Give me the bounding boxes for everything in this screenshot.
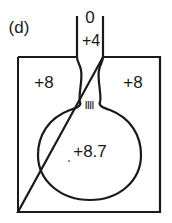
bulb-value: +8.7 [73,143,107,160]
panel-label: (d) [9,19,30,36]
tube-top-value: 0 [85,9,94,26]
diagram-panel-d: (d) 0 +4 +8 +8 IIII +8.7 [0,0,172,223]
neck-hatch-marker: IIII [85,100,94,111]
bulb-dot [68,160,70,162]
box-right-value: +8 [123,74,142,91]
box-left-value: +8 [34,74,53,91]
tube-mid-value: +4 [82,33,100,49]
